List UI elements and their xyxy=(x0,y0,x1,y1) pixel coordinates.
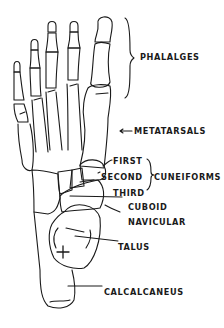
hallux-bones xyxy=(80,17,112,168)
talus-cross-mark xyxy=(57,246,69,258)
second-toe-bones xyxy=(67,22,82,151)
label-phalanges: PHALALGES xyxy=(140,53,200,61)
metatarsals-arrow xyxy=(120,129,132,133)
label-cuneiform-third: THIRD xyxy=(113,189,145,197)
label-calcaneus: CALCALCANEUS xyxy=(104,288,184,296)
label-metatarsals: METATARSALS xyxy=(134,127,206,135)
phalanges-brace xyxy=(125,18,134,98)
label-navicular: NAVICULAR xyxy=(128,218,186,226)
fourth-toe-bones xyxy=(30,40,48,153)
label-cuneiforms: CUNEIFORMS xyxy=(154,173,221,181)
label-cuneiform-first: FIRST xyxy=(113,157,142,165)
cuneiforms-brace xyxy=(147,159,154,190)
label-talus: TALUS xyxy=(118,243,150,251)
foot-skeleton-drawing xyxy=(0,0,224,328)
label-cuboid: CUBOID xyxy=(128,203,167,211)
third-toe-bones xyxy=(46,22,62,151)
label-cuneiform-second: SECOND xyxy=(101,173,143,181)
